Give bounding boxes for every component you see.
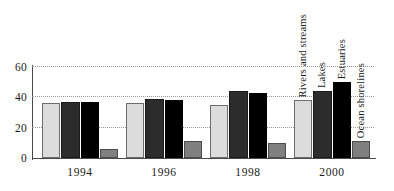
bar-estuaries-1998 (249, 93, 267, 158)
y-axis-tick-label: 20 (15, 122, 27, 134)
bar-estuaries-2000 (333, 82, 351, 158)
bar-estuaries-1996 (165, 100, 183, 158)
x-axis-line (32, 158, 376, 159)
bar-ocean-shorelines-1994 (100, 149, 118, 158)
x-axis-tick-label: 1998 (235, 166, 260, 178)
clipped-bottom-text (0, 185, 394, 191)
y-axis-tick-label: 60 (15, 61, 27, 73)
bar-lakes-2000 (313, 91, 331, 158)
bar-lakes-1994 (61, 102, 79, 158)
bar-ocean-shorelines-1996 (184, 141, 202, 158)
legend-label-rivers-and-streams: Rivers and streams (298, 14, 309, 98)
bar-group-bars (210, 67, 286, 158)
bar-group-bars (42, 67, 118, 158)
bar-chart: 02040601994199619982000Rivers and stream… (0, 0, 394, 191)
y-axis-tick-label: 40 (15, 91, 27, 103)
bar-ocean-shorelines-2000 (352, 141, 370, 158)
x-axis-tick-label: 1996 (151, 166, 176, 178)
bar-estuaries-1994 (81, 102, 99, 158)
bar-rivers-and-streams-1996 (126, 103, 144, 158)
legend-label-ocean-shorelines: Ocean shorelines (356, 63, 367, 138)
bar-rivers-and-streams-2000 (294, 100, 312, 158)
clipped-top-text (0, 0, 394, 6)
bar-lakes-1996 (145, 99, 163, 158)
bar-lakes-1998 (229, 91, 247, 158)
y-axis-tick-label: 0 (21, 152, 27, 164)
bar-group: 1998 (210, 67, 286, 158)
bar-rivers-and-streams-1994 (42, 103, 60, 158)
bar-group: 1996 (126, 67, 202, 158)
x-axis-tick-label: 1994 (67, 166, 92, 178)
plot-area: 02040601994199619982000Rivers and stream… (32, 67, 374, 158)
legend-label-lakes: Lakes (317, 62, 328, 88)
legend-label-estuaries: Estuaries (337, 39, 348, 79)
x-axis-tick-label: 2000 (319, 166, 344, 178)
bar-rivers-and-streams-1998 (210, 105, 228, 158)
bar-group: 1994 (42, 67, 118, 158)
bar-ocean-shorelines-1998 (268, 143, 286, 158)
bar-group-bars (126, 67, 202, 158)
